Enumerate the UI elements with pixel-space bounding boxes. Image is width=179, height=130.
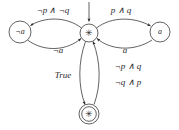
edge-label-center-to-bottom: True [55, 70, 72, 80]
state-bottom-label: ✳ [85, 109, 93, 119]
edge-center-to-bottom [80, 42, 86, 105]
state-left-label: ¬a [15, 27, 24, 36]
state-bottom[interactable]: ✳ [79, 104, 99, 124]
state-right-label: a [158, 27, 162, 36]
edge-bottom-to-center [93, 42, 99, 105]
edge-label-center-to-left: ¬p ∧ ¬q [37, 5, 70, 15]
edge-label-center-to-right: p ∧ q [110, 5, 132, 15]
state-center-label: ✳ [85, 28, 93, 38]
edge-label-bottom-to-center-line1: ¬p ∧ q [115, 61, 142, 71]
state-center[interactable]: ✳ [80, 24, 98, 42]
edge-label-left-to-center: ¬a [53, 45, 64, 55]
edge-center-to-right [97, 19, 151, 28]
automaton-figure: ¬a ✳ a ✳ ¬p ∧ ¬q ¬a p ∧ q a True ¬p ∧ q … [0, 0, 179, 130]
automaton-diagram: ¬a ✳ a ✳ ¬p ∧ ¬q ¬a p ∧ q a True ¬p ∧ q … [0, 0, 179, 130]
edge-label-bottom-to-center-line2: ¬q ∧ p [115, 77, 142, 87]
edge-center-to-left [31, 19, 82, 28]
state-right[interactable]: a [150, 22, 170, 42]
state-left[interactable]: ¬a [9, 21, 31, 43]
edge-label-right-to-center: a [123, 45, 128, 55]
